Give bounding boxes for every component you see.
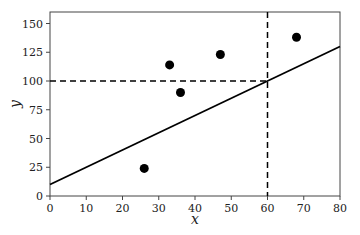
x-tick-label: 60 [261, 202, 275, 215]
data-point [140, 164, 149, 173]
x-tick-label: 80 [333, 202, 347, 215]
x-axis-label: x [191, 211, 199, 227]
regression-line [50, 47, 340, 185]
y-tick-label: 100 [22, 75, 43, 88]
scatter-chart: 01020304050607080 0255075100125150 x y [0, 0, 360, 235]
x-tick-label: 30 [152, 202, 166, 215]
x-tick-label: 70 [297, 202, 311, 215]
data-point [176, 88, 185, 97]
y-axis-ticks: 0255075100125150 [22, 18, 50, 204]
data-point [165, 60, 174, 69]
y-tick-label: 75 [29, 104, 43, 117]
fit-line [50, 47, 340, 185]
y-axis-label: y [7, 99, 23, 109]
y-tick-label: 150 [22, 18, 43, 31]
y-tick-label: 25 [29, 161, 43, 174]
x-tick-label: 10 [79, 202, 93, 215]
y-tick-label: 125 [22, 46, 43, 59]
data-point [292, 33, 301, 42]
x-tick-label: 50 [224, 202, 238, 215]
y-tick-label: 50 [29, 133, 43, 146]
data-point [216, 50, 225, 59]
x-tick-label: 20 [116, 202, 130, 215]
y-tick-label: 0 [36, 190, 43, 203]
x-tick-label: 0 [47, 202, 54, 215]
